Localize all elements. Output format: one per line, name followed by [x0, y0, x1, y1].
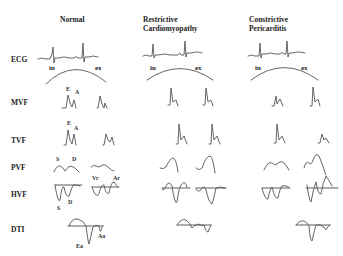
respiration-arc-restrictive: [147, 69, 213, 81]
mvf-constrictive: [272, 87, 320, 106]
respiration-arc-normal: [46, 69, 106, 84]
ecg-trace-constrictive: [248, 41, 305, 58]
tvf-normal: [64, 130, 114, 145]
hvf-normal: [55, 182, 119, 201]
doppler-comparison-figure: Normal Restrictive Cardiomyopathy Constr…: [0, 0, 343, 256]
pvf-restrictive: [160, 156, 215, 173]
dti-normal: [68, 219, 103, 244]
hvf-constrictive: [262, 176, 338, 202]
mvf-normal: [62, 95, 107, 108]
hvf-restrictive: [162, 183, 226, 204]
dti-restrictive: [177, 220, 211, 232]
dti-constrictive: [296, 221, 330, 241]
ecg-trace-restrictive: [143, 41, 202, 58]
pvf-constrictive: [264, 155, 326, 175]
respiration-arc-constrictive: [251, 68, 318, 81]
tvf-constrictive: [274, 124, 329, 143]
mvf-restrictive: [168, 88, 213, 106]
pvf-normal: [54, 165, 114, 172]
ecg-trace-normal: [38, 43, 98, 63]
tvf-restrictive: [176, 124, 220, 144]
waveform-drawings: [0, 0, 343, 256]
